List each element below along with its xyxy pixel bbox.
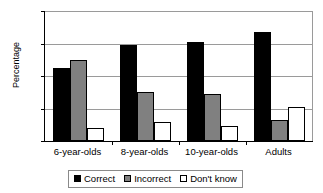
bar-group-adults xyxy=(246,11,313,141)
bar-correct-2[interactable] xyxy=(120,45,137,141)
legend-item-incorrect[interactable]: Incorrect xyxy=(124,173,171,184)
legend: Correct Incorrect Don't know xyxy=(68,170,243,188)
y-tick-mark-0 xyxy=(41,141,45,142)
legend-item-dont-know[interactable]: Don't know xyxy=(180,173,237,184)
bar-correct-4[interactable] xyxy=(254,32,271,141)
bar-dontknow-1[interactable] xyxy=(87,128,104,141)
legend-item-correct[interactable]: Correct xyxy=(74,173,115,184)
legend-swatch-incorrect-icon xyxy=(124,175,131,182)
legend-label-correct: Correct xyxy=(84,173,115,184)
x-axis-label-1: 6-year-olds xyxy=(44,146,111,157)
bar-dontknow-4[interactable] xyxy=(288,107,305,141)
legend-swatch-correct-icon xyxy=(74,175,81,182)
bar-group-8-year-olds xyxy=(112,11,179,141)
legend-label-dont-know: Don't know xyxy=(190,173,237,184)
x-axis-labels: 6-year-olds8-year-olds10-year-oldsAdults xyxy=(44,146,312,157)
bar-groups xyxy=(45,11,313,141)
bar-incorrect-3[interactable] xyxy=(204,94,221,141)
bar-dontknow-3[interactable] xyxy=(221,126,238,141)
bar-incorrect-4[interactable] xyxy=(271,120,288,141)
legend-swatch-dont-know-icon xyxy=(180,175,187,182)
plot-area xyxy=(44,11,313,142)
x-axis-label-4: Adults xyxy=(245,146,312,157)
bar-group-10-year-olds xyxy=(179,11,246,141)
y-axis-title: Percentage xyxy=(11,28,21,102)
bar-correct-1[interactable] xyxy=(53,68,70,141)
x-axis-label-3: 10-year-olds xyxy=(178,146,245,157)
legend-label-incorrect: Incorrect xyxy=(134,173,171,184)
bar-chart: Percentage 80 60 40 20 0 6-year-olds8-ye… xyxy=(0,0,323,193)
bar-correct-3[interactable] xyxy=(187,42,204,141)
bar-incorrect-1[interactable] xyxy=(70,60,87,141)
bar-dontknow-2[interactable] xyxy=(154,122,171,142)
bar-group-6-year-olds xyxy=(45,11,112,141)
bar-incorrect-2[interactable] xyxy=(137,92,154,141)
x-axis-label-2: 8-year-olds xyxy=(111,146,178,157)
